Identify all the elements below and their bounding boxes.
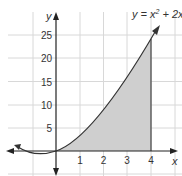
y-tick-25: 25: [41, 30, 53, 41]
x-tick-4: 4: [148, 155, 154, 166]
y-tick-10: 10: [41, 100, 53, 111]
curve-arrow-left: [14, 144, 21, 150]
y-tick-5: 5: [46, 123, 52, 134]
y-tick-20: 20: [41, 53, 53, 64]
y-tick-15: 15: [41, 77, 53, 88]
chart-canvas: 1 2 3 4 5 10 15 20 25 x y y = x2 + 2x: [0, 0, 182, 176]
x-axis-label: x: [171, 155, 178, 167]
x-tick-3: 3: [124, 155, 130, 166]
x-tick-2: 2: [101, 155, 107, 166]
curve-arrow-right: [152, 25, 160, 35]
y-axis-label: y: [45, 10, 53, 22]
x-tick-1: 1: [77, 155, 83, 166]
equation-label: y = x2 + 2x: [131, 8, 182, 20]
